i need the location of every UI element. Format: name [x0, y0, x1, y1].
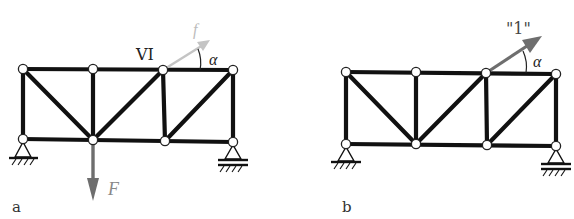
diagonal-member — [23, 69, 93, 140]
node — [481, 68, 490, 77]
node — [88, 64, 97, 73]
arrowhead-icon — [87, 178, 99, 201]
diagonal-member — [165, 70, 233, 141]
truss-members-a — [23, 69, 233, 142]
node — [411, 139, 420, 148]
node — [551, 69, 560, 78]
diagonal-member — [487, 74, 556, 145]
node — [341, 139, 350, 148]
top-chord — [23, 69, 233, 70]
node — [482, 140, 491, 149]
node — [160, 136, 169, 145]
roller-support-right — [218, 145, 248, 172]
diagonal-member — [346, 72, 416, 144]
unit-load-label: "1" — [506, 19, 531, 38]
angle-label-alpha: α — [209, 51, 218, 68]
pin-support-left — [9, 142, 38, 165]
node — [341, 67, 350, 76]
node — [18, 64, 27, 73]
node — [411, 67, 420, 76]
node — [228, 137, 237, 146]
arrowhead-icon — [197, 40, 210, 51]
top-chord — [346, 72, 556, 74]
load-label-f: F — [107, 179, 120, 199]
load-arrow-f: F — [87, 142, 120, 201]
truss-figure: f α VI F — [0, 0, 574, 219]
angle-label-alpha: α — [533, 53, 542, 70]
node — [18, 134, 27, 143]
vertical-member — [163, 70, 165, 141]
panel-label-a: a — [12, 198, 21, 216]
node — [88, 135, 97, 144]
truss-members-b — [346, 72, 556, 146]
bottom-chord — [23, 139, 233, 142]
node-vi — [158, 65, 167, 74]
bottom-chord — [346, 144, 556, 146]
vertical-member — [486, 73, 487, 145]
panel-label-b: b — [342, 198, 352, 216]
node-label-vi: VI — [135, 45, 154, 64]
angle-arc — [198, 49, 201, 70]
panel-a: f α VI F — [9, 21, 248, 216]
arrow-label-f: f — [193, 21, 200, 39]
arrowhead-icon — [522, 36, 542, 53]
pin-support-left — [331, 147, 361, 169]
node — [228, 65, 237, 74]
diagonal-member — [93, 70, 163, 140]
angle-arc — [523, 51, 526, 73]
virtual-force-arrow-f: f — [163, 21, 210, 70]
diagonal-member — [416, 73, 486, 144]
node — [551, 141, 560, 150]
panel-b: "1" α — [331, 19, 571, 216]
roller-support-right — [541, 149, 571, 176]
